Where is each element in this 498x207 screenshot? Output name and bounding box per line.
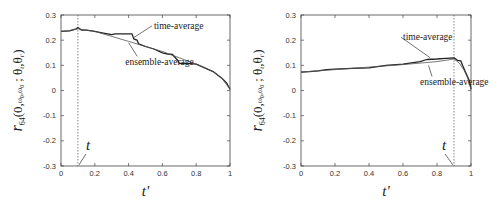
x-tick-label: 0.4 <box>123 169 133 178</box>
marker-arrow <box>79 154 86 165</box>
y-tick-label: 0 <box>52 86 56 95</box>
y-tick-label: -0.3 <box>283 162 296 171</box>
y-tick-label: -0.2 <box>43 136 56 145</box>
x-tick-label: 0.6 <box>157 169 167 178</box>
chart-figure: 00.20.40.60.81-0.3-0.2-0.100.10.20.3ttim… <box>0 0 498 207</box>
x-tick-label: 0.2 <box>330 169 340 178</box>
time-marker-label: t <box>86 137 91 153</box>
y-tick-label: 0.1 <box>46 61 56 70</box>
left-chart-panel: 00.20.40.60.81-0.3-0.2-0.100.10.20.3ttim… <box>8 11 232 200</box>
y-tick-label: 0.3 <box>46 11 56 20</box>
x-tick-label: 0 <box>59 169 63 178</box>
x-tick-label: 0.4 <box>364 169 374 178</box>
x-axis-label: t' <box>382 183 390 199</box>
annotation-arrow <box>429 65 433 76</box>
y-tick-label: 0.2 <box>286 36 296 45</box>
x-tick-label: 0.8 <box>432 169 442 178</box>
ensemble-average-annotation: ensemble-average <box>125 57 194 67</box>
x-tick-label: 0.8 <box>191 169 201 178</box>
x-tick-label: 0 <box>299 169 303 178</box>
annotation-arrow <box>129 43 138 57</box>
y-axis-label: r64(0,ω₀,ω₀ ; θt,θt') <box>248 49 267 131</box>
annotation-arrow <box>134 26 152 38</box>
x-tick-label: 1 <box>228 169 232 178</box>
y-tick-label: 0.2 <box>46 36 56 45</box>
x-axis-label: t' <box>142 183 150 199</box>
y-tick-label: -0.3 <box>43 162 56 171</box>
ensemble-average-annotation: ensemble-average <box>420 77 489 87</box>
y-tick-label: -0.1 <box>43 111 56 120</box>
y-tick-label: 0.1 <box>286 61 296 70</box>
x-tick-label: 0.2 <box>90 169 100 178</box>
marker-arrow <box>445 154 453 165</box>
y-tick-label: 0.3 <box>286 11 296 20</box>
x-tick-label: 1 <box>469 169 473 178</box>
time-average-annotation: time-average <box>403 32 453 42</box>
y-tick-label: -0.1 <box>283 111 296 120</box>
right-chart-panel: 00.20.40.60.81-0.3-0.2-0.100.10.20.3ttim… <box>248 11 489 200</box>
x-tick-label: 0.6 <box>398 169 408 178</box>
y-axis-label: r64(0,ω₀,ω₀ ; θt,θt') <box>8 49 27 131</box>
time-marker-label: t <box>442 137 447 153</box>
y-tick-label: -0.2 <box>283 136 296 145</box>
y-tick-label: 0 <box>292 86 296 95</box>
time-average-annotation: time-average <box>154 21 204 31</box>
